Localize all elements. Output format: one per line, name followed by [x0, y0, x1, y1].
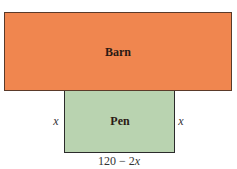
bottom-side-var: x: [135, 154, 140, 168]
bottom-side-prefix: 120 − 2: [98, 154, 135, 168]
right-side-label: x: [178, 114, 183, 129]
pen-label: Pen: [110, 114, 129, 129]
bottom-side-label: 120 − 2x: [98, 154, 140, 169]
barn-label: Barn: [105, 45, 131, 60]
left-side-label: x: [53, 114, 58, 129]
